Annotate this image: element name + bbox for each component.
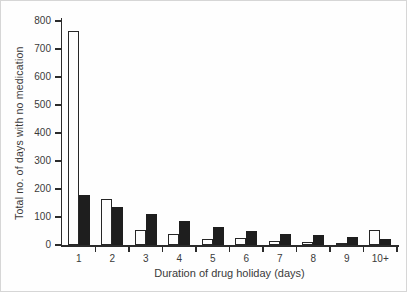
bar-filled-1	[79, 195, 90, 245]
y-axis-tick	[55, 20, 61, 21]
y-tick-label: 700	[25, 44, 51, 54]
y-tick-label: 100	[25, 212, 51, 222]
x-category-label: 7	[265, 253, 295, 264]
bar-chart-figure: Total no. of days with no medication Dur…	[0, 0, 407, 292]
y-axis-tick	[55, 48, 61, 49]
bar-open-8	[302, 242, 313, 245]
bar-filled-3	[146, 214, 157, 245]
x-category-label: 2	[97, 253, 127, 264]
x-axis-tick	[363, 247, 364, 252]
y-axis-tick	[55, 76, 61, 77]
bar-open-4	[168, 234, 179, 245]
x-category-label: 8	[298, 253, 328, 264]
bar-open-9	[336, 243, 347, 246]
x-axis-tick	[195, 247, 196, 252]
x-category-label: 5	[198, 253, 228, 264]
x-category-label: 4	[164, 253, 194, 264]
y-tick-label: 800	[25, 16, 51, 26]
bar-filled-5	[213, 227, 224, 245]
bar-open-1	[68, 31, 79, 245]
x-axis-tick	[329, 247, 330, 252]
bar-open-2	[101, 199, 112, 245]
x-axis-tick	[128, 247, 129, 252]
bar-filled-10+	[380, 239, 391, 245]
x-category-label: 3	[131, 253, 161, 264]
x-axis-tick	[95, 247, 96, 252]
bar-filled-6	[246, 231, 257, 245]
y-tick-label: 400	[25, 128, 51, 138]
bar-open-10+	[369, 230, 380, 245]
y-axis-title: Total no. of days with no medication	[13, 21, 25, 245]
x-axis-tick	[262, 247, 263, 252]
x-axis-tick	[396, 247, 397, 252]
y-axis-tick	[55, 216, 61, 217]
y-tick-label: 500	[25, 100, 51, 110]
x-category-label: 1	[64, 253, 94, 264]
x-axis-tick	[296, 247, 297, 252]
bar-open-7	[269, 241, 280, 245]
y-tick-label: 200	[25, 184, 51, 194]
bar-open-6	[235, 238, 246, 245]
x-axis-tick	[229, 247, 230, 252]
bar-filled-9	[347, 237, 358, 245]
bar-filled-8	[313, 235, 324, 245]
bar-open-5	[202, 239, 213, 245]
x-category-label: 10+	[365, 253, 395, 264]
bar-filled-7	[280, 234, 291, 245]
y-axis-tick	[55, 188, 61, 189]
bar-open-3	[135, 230, 146, 245]
x-axis-tick	[162, 247, 163, 252]
y-tick-label: 300	[25, 156, 51, 166]
y-axis-tick	[55, 132, 61, 133]
bar-filled-2	[112, 207, 123, 245]
y-axis-tick	[55, 160, 61, 161]
bar-filled-4	[179, 221, 190, 245]
y-axis-tick	[55, 104, 61, 105]
y-tick-label: 0	[25, 240, 51, 250]
y-axis-tick	[55, 244, 61, 245]
x-category-label: 6	[231, 253, 261, 264]
x-axis-title: Duration of drug holiday (days)	[62, 267, 397, 279]
y-tick-label: 600	[25, 72, 51, 82]
x-category-label: 9	[332, 253, 362, 264]
